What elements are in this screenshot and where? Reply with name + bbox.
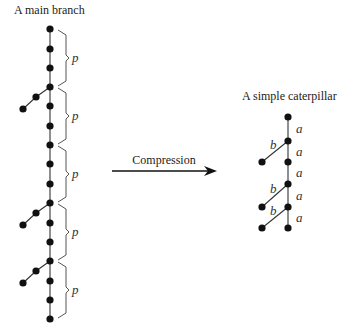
curly-bracket [58, 30, 69, 86]
caterpillar-spine-node [284, 113, 291, 120]
edge-label-a: a [296, 144, 303, 159]
branch-node [19, 105, 26, 112]
main-branch-tree [19, 25, 53, 322]
compression-arrow: Compression [112, 153, 217, 176]
edge-label-a: a [296, 121, 303, 136]
bracket-label-p: p [71, 282, 79, 297]
spine-node [46, 238, 53, 245]
spine-node [46, 160, 53, 167]
curly-bracket [58, 88, 69, 144]
spine-node [46, 257, 53, 264]
edge-label-b: b [270, 181, 277, 196]
spine-node [46, 83, 53, 90]
caterpillar-spine-node [284, 158, 291, 165]
edge-label-a: a [296, 165, 303, 180]
caterpillar-spine-node [284, 203, 291, 210]
edge-label-a: a [296, 188, 303, 203]
compression-diagram: A main branch A simple caterpillar ppppp… [0, 0, 350, 334]
branch-node [32, 209, 39, 216]
bracket-label-p: p [71, 166, 79, 181]
curly-bracket [58, 262, 69, 318]
caterpillar-tree: bbbaaaaa [258, 113, 303, 231]
caterpillar-spine-node [284, 137, 291, 144]
leaf-node [258, 224, 265, 231]
spine-node [46, 122, 53, 129]
leaf-node [258, 158, 265, 165]
spine-node [46, 296, 53, 303]
compression-label: Compression [132, 153, 195, 167]
caterpillar-spine-node [284, 224, 291, 231]
spine-node [46, 25, 53, 32]
branch-node [19, 221, 26, 228]
bracket-label-p: p [71, 224, 79, 239]
bracket-label-p: p [71, 50, 79, 65]
branch-node [32, 93, 39, 100]
spine-node [46, 102, 53, 109]
curly-bracket [58, 204, 69, 260]
edge-label-b: b [270, 137, 277, 152]
spine-node [46, 277, 53, 284]
edge-label-b: b [270, 203, 277, 218]
spine-node [46, 199, 53, 206]
period-brackets: ppppp [58, 30, 79, 318]
caterpillar-spine-node [284, 180, 291, 187]
spine-node [46, 219, 53, 226]
main-branch-title: A main branch [14, 3, 85, 17]
branch-node [32, 267, 39, 274]
spine-node [46, 180, 53, 187]
caterpillar-title: A simple caterpillar [242, 89, 337, 103]
edge-label-a: a [296, 210, 303, 225]
spine-node [46, 315, 53, 322]
spine-node [46, 64, 53, 71]
branch-node [19, 279, 26, 286]
spine-node [46, 45, 53, 52]
curly-bracket [58, 146, 69, 202]
spine-node [46, 141, 53, 148]
leaf-node [258, 203, 265, 210]
bracket-label-p: p [71, 108, 79, 123]
